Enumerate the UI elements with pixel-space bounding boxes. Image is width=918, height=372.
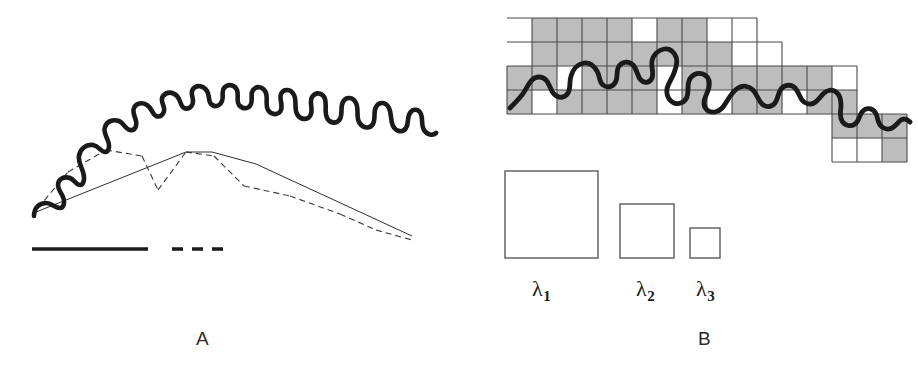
delta2-chord-lines (38, 150, 412, 240)
lambda2-square (620, 204, 674, 258)
lambda3-label: λ3 (696, 276, 715, 305)
lambda2-label: λ2 (636, 276, 655, 305)
delta1-legend-line (30, 244, 152, 254)
lambda1-square (505, 171, 598, 258)
delta2-legend-line (170, 244, 232, 254)
delta1-chord-lines (36, 152, 412, 236)
lambda1-label: λ1 (532, 276, 551, 305)
lambda3-square (690, 228, 720, 258)
panel-b-label: B (698, 328, 711, 350)
panel-a-drawing (0, 0, 470, 320)
panel-a-label: A (196, 328, 209, 350)
lambda-squares (500, 165, 760, 275)
box-counting-grid (470, 0, 918, 175)
figure-root: δ1 δ2 A (0, 0, 918, 372)
panel-a: δ1 δ2 A (0, 0, 470, 372)
panel-b: λ1 λ2 λ3 B (470, 0, 918, 372)
panel-a-fractal-curve (34, 85, 436, 216)
